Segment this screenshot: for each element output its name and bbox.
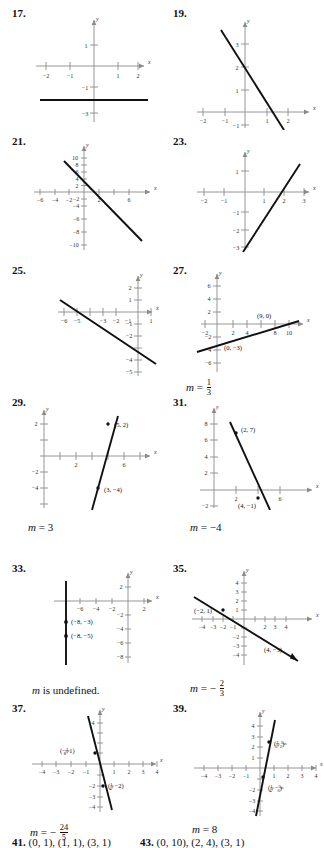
tick-label: −1 xyxy=(243,773,249,779)
tick-label: −4 xyxy=(89,804,95,810)
y-axis-label: y xyxy=(139,272,143,278)
slope-fraction: 1 3 xyxy=(207,378,211,396)
tick-label: 2 xyxy=(204,469,207,476)
tick-label: −3 xyxy=(210,624,216,630)
slope-29: m = 3 xyxy=(28,521,53,533)
tick-label: 2 xyxy=(76,183,79,189)
tick-label: −4 xyxy=(233,652,239,658)
tick-label: 2 xyxy=(74,461,77,468)
tick-label: −8 xyxy=(117,653,124,660)
tick-label: −4 xyxy=(117,625,124,632)
slope-variable: m xyxy=(192,823,200,835)
graph-31: 2 6 8 6 4 2 −2 x y (2, 7) (4, −1) xyxy=(192,400,322,510)
tick-label: −8 xyxy=(73,229,79,235)
tick-label: 1 xyxy=(265,117,268,124)
tick-label: −2 xyxy=(233,634,239,640)
tick-label: 6 xyxy=(207,282,210,289)
plotted-line xyxy=(197,321,299,352)
answer-41: 41. (0, 1), (1, 1), (3, 1) xyxy=(12,836,111,848)
problem-21: 21. xyxy=(12,136,26,147)
tick-label: 8 xyxy=(273,329,276,336)
tick-label: 4 xyxy=(285,624,288,630)
slope-variable: m xyxy=(190,521,198,533)
problem-35: 35. xyxy=(173,563,187,574)
tick-label: 2 xyxy=(286,117,289,124)
tick-label: 2 xyxy=(207,308,210,315)
fraction-numerator: 24 xyxy=(60,823,69,832)
problem-37: 37. xyxy=(12,703,26,714)
tick-label: 3 xyxy=(274,624,277,630)
x-axis-label: x xyxy=(155,305,159,311)
problem-number-19: 19. xyxy=(173,8,187,19)
tick-label: −1 xyxy=(233,209,240,216)
tick-label: 10 xyxy=(286,329,292,336)
tick-label: 3 xyxy=(301,773,304,779)
slope-39: m = 8 xyxy=(192,823,217,835)
tick-label: 2 xyxy=(34,420,37,427)
plotted-line xyxy=(60,300,156,364)
plotted-point xyxy=(234,431,237,434)
y-axis-label: y xyxy=(246,148,250,154)
point-label: (4, −3) xyxy=(264,646,282,654)
plotted-point xyxy=(106,422,109,425)
tick-label: 6 xyxy=(204,436,207,443)
problem-number-43: 43. xyxy=(140,836,154,848)
plotted-point xyxy=(93,751,96,754)
point-label: (0, −3) xyxy=(224,344,242,352)
graph-37: −4 −3 −2 −1 1 2 3 4 4 −2 −3 −4 x y xyxy=(26,706,166,816)
tick-label: 2 xyxy=(235,64,238,71)
tick-label: 1 xyxy=(236,607,239,613)
tick-label: 2 xyxy=(287,773,290,779)
tick-label: −2 xyxy=(249,787,255,793)
plotted-point xyxy=(267,740,270,743)
y-axis-label: y xyxy=(215,404,219,410)
point-label: (2, 7) xyxy=(241,426,255,434)
tick-label: −2 xyxy=(202,502,209,509)
x-axis-label: x xyxy=(312,105,316,111)
slope-variable: m xyxy=(32,684,40,696)
problem-number-17: 17. xyxy=(12,8,26,19)
tick-label: −1 xyxy=(82,84,89,91)
y-axis-label: y xyxy=(129,569,133,575)
tick-label: 2 xyxy=(264,624,267,630)
graph-35: −4 −3 −2 −1 2 3 4 4 3 2 1 −2 −3 −4 x y xyxy=(186,565,322,667)
y-axis-label: y xyxy=(45,406,49,412)
problem-19: 19. xyxy=(173,8,187,19)
tick-label: −3 xyxy=(89,794,95,800)
equals-sign: = xyxy=(201,521,207,533)
tick-label: −1 xyxy=(221,197,228,204)
tick-label: −2 xyxy=(32,468,39,475)
plotted-line xyxy=(221,30,284,130)
tick-label: 1 xyxy=(235,168,238,175)
tick-label: 1 xyxy=(149,317,152,324)
x-axis-label: x xyxy=(155,594,159,600)
tick-label: −4 xyxy=(199,624,205,630)
tick-label: −2 xyxy=(43,72,50,79)
plotted-point xyxy=(64,634,68,638)
point-label-fraction: (23, 52) xyxy=(274,740,284,750)
tick-label: −2 xyxy=(220,624,226,630)
tick-label: −1 xyxy=(67,72,74,79)
x-axis-label: x xyxy=(315,483,319,489)
tick-label: −3 xyxy=(100,317,107,324)
tick-label: 1 xyxy=(116,72,119,79)
tick-label: 6 xyxy=(128,197,131,203)
tick-label: 6 xyxy=(122,461,125,468)
slope-27: m = 1 3 xyxy=(186,378,212,396)
tick-label: 2 xyxy=(142,605,145,612)
tick-label: 2 xyxy=(236,598,239,604)
y-axis-label: y xyxy=(245,567,249,573)
tick-label: 2 xyxy=(136,72,139,79)
tick-label: −2 xyxy=(109,605,116,612)
tick-label: 1 xyxy=(262,197,265,204)
problem-33: 33. xyxy=(12,563,26,574)
x-axis-label: x xyxy=(153,185,157,191)
graph-39: −4 −3 −2 −1 1 2 3 4 4 3 2 1 −2 −3 −4 x y xyxy=(188,706,324,818)
y-axis-label: y xyxy=(95,16,99,22)
y-axis-label: y xyxy=(218,270,222,276)
point-label: (9, 0) xyxy=(257,312,271,320)
graph-23: −2 −1 1 2 3 1 −1 −2 −3 x y xyxy=(187,140,319,252)
tick-label: −4 xyxy=(39,769,45,775)
x-axis-label: x xyxy=(159,757,163,763)
tick-label: −10 xyxy=(69,242,78,248)
